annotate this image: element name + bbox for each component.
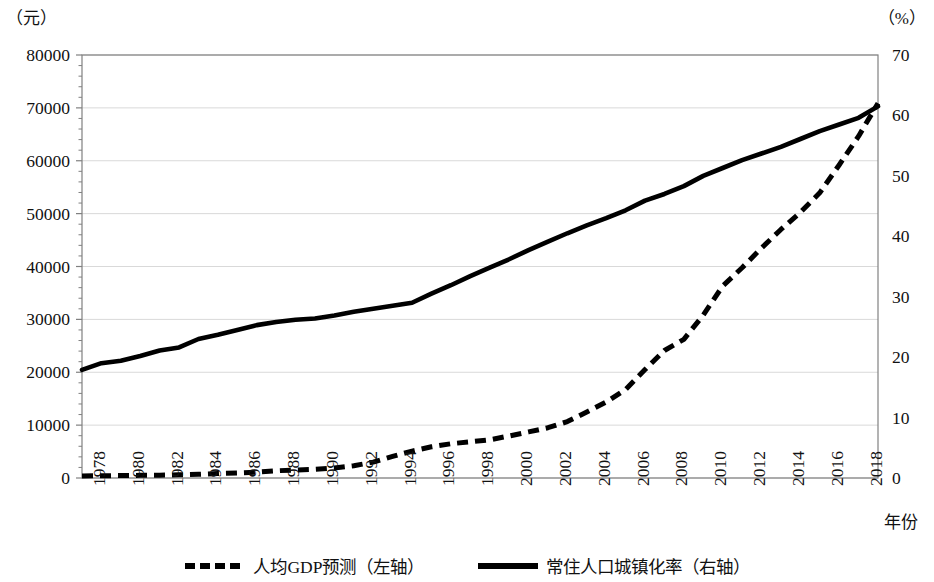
x-axis-tick-label: 2016 — [827, 451, 848, 486]
x-axis-tick-label: 1978 — [89, 451, 110, 486]
right-axis-tick-label: 0 — [892, 468, 901, 489]
legend-solid-line-icon — [477, 559, 539, 573]
right-axis-tick-label: 40 — [892, 226, 910, 247]
legend-item-label: 人均GDP预测（左轴） — [253, 553, 424, 578]
legend-item-2: 常住人口城镇化率（右轴） — [477, 553, 750, 578]
chart-figure: （元） （%） 01000020000300004000050000600007… — [0, 0, 934, 582]
left-axis-tick-label: 50000 — [26, 203, 70, 224]
left-axis-tick-label: 70000 — [26, 97, 70, 118]
x-axis-tick-label: 1982 — [167, 451, 188, 486]
x-axis-tick-label: 1994 — [400, 451, 421, 486]
left-axis-tick-label: 20000 — [26, 362, 70, 383]
x-axis-title: 年份 — [884, 508, 918, 533]
left-axis-tick-label: 0 — [61, 468, 70, 489]
x-axis-tick-label: 1988 — [283, 451, 304, 486]
x-axis-tick-label: 1990 — [322, 451, 343, 486]
x-axis-tick-label: 2004 — [594, 451, 615, 486]
legend-item-1: 人均GDP预测（左轴） — [184, 553, 424, 578]
x-axis-tick-label: 1984 — [205, 451, 226, 486]
x-axis-tick-label: 2018 — [866, 451, 887, 486]
left-axis-tick-label: 60000 — [26, 150, 70, 171]
x-axis-tick-label: 1998 — [477, 451, 498, 486]
right-axis-tick-label: 30 — [892, 286, 910, 307]
x-axis-tick-label: 1992 — [361, 451, 382, 486]
x-axis-tick-label: 1980 — [128, 451, 149, 486]
left-axis-tick-label: 10000 — [26, 415, 70, 436]
x-axis-tick-label: 2002 — [555, 451, 576, 486]
legend-dashed-line-icon — [184, 559, 246, 573]
series-line-1 — [82, 103, 878, 476]
left-axis-tick-label: 80000 — [26, 45, 70, 66]
right-axis-tick-label: 20 — [892, 347, 910, 368]
chart-plot-area — [0, 0, 934, 582]
right-axis-tick-label: 50 — [892, 165, 910, 186]
x-axis-tick-label: 2006 — [633, 451, 654, 486]
right-axis-tick-label: 70 — [892, 45, 910, 66]
left-axis-tick-label: 40000 — [26, 256, 70, 277]
x-axis-tick-label: 2010 — [710, 451, 731, 486]
chart-legend: 人均GDP预测（左轴）常住人口城镇化率（右轴） — [0, 553, 934, 578]
x-axis-tick-label: 1996 — [438, 451, 459, 486]
x-axis-tick-label: 2012 — [749, 451, 770, 486]
x-axis-tick-label: 2014 — [788, 451, 809, 486]
x-axis-tick-label: 2008 — [671, 451, 692, 486]
right-axis-tick-label: 10 — [892, 407, 910, 428]
series-line-2 — [82, 106, 878, 369]
x-axis-tick-label: 1986 — [244, 451, 265, 486]
right-axis-tick-label: 60 — [892, 105, 910, 126]
legend-item-label: 常住人口城镇化率（右轴） — [546, 553, 750, 578]
x-axis-tick-label: 2000 — [516, 451, 537, 486]
left-axis-tick-label: 30000 — [26, 309, 70, 330]
